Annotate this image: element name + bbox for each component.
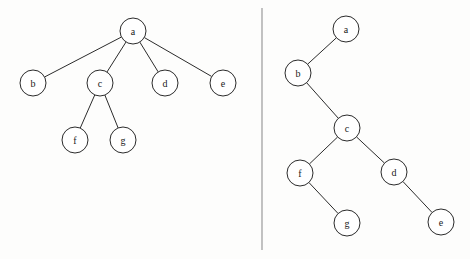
node-label-e: e xyxy=(221,78,226,89)
tree-node-binary-tree-c[interactable]: c xyxy=(334,115,360,141)
node-label-g: g xyxy=(345,218,350,229)
tree-edge-general-tree-a-b xyxy=(45,37,122,77)
node-label-b: b xyxy=(31,78,36,89)
tree-edge-binary-tree-d-e xyxy=(403,181,432,212)
node-label-a: a xyxy=(344,24,349,35)
tree-node-general-tree-c[interactable]: c xyxy=(87,70,113,96)
tree-edge-binary-tree-b-c xyxy=(307,83,339,119)
tree-node-binary-tree-e[interactable]: e xyxy=(428,209,454,235)
tree-node-binary-tree-b[interactable]: b xyxy=(285,60,311,86)
node-label-d: d xyxy=(392,167,397,178)
node-label-d: d xyxy=(163,78,168,89)
node-label-c: c xyxy=(345,123,350,134)
edges-layer xyxy=(45,37,433,214)
node-label-c: c xyxy=(98,78,103,89)
tree-edge-general-tree-a-d xyxy=(140,42,158,72)
tree-edge-binary-tree-c-f xyxy=(309,137,337,164)
tree-node-general-tree-e[interactable]: e xyxy=(210,70,236,96)
node-label-b: b xyxy=(296,68,301,79)
node-label-e: e xyxy=(439,217,444,228)
tree-edge-binary-tree-c-d xyxy=(356,137,384,163)
tree-node-general-tree-a[interactable]: a xyxy=(120,18,146,44)
tree-node-binary-tree-g[interactable]: g xyxy=(334,210,360,236)
tree-edge-general-tree-a-c xyxy=(107,42,126,72)
tree-node-general-tree-f[interactable]: f xyxy=(62,127,88,153)
tree-edge-binary-tree-f-g xyxy=(309,182,338,213)
tree-node-binary-tree-a[interactable]: a xyxy=(333,16,359,42)
tree-node-general-tree-d[interactable]: d xyxy=(152,70,178,96)
node-label-a: a xyxy=(131,26,136,37)
tree-diagram-figure: abcdefgabcfdge xyxy=(0,0,470,259)
tree-edge-general-tree-c-g xyxy=(105,95,118,128)
nodes-layer: abcdefgabcfdge xyxy=(20,16,454,236)
tree-node-binary-tree-f[interactable]: f xyxy=(287,160,313,186)
node-label-g: g xyxy=(121,135,126,146)
tree-edge-general-tree-a-e xyxy=(144,38,211,77)
tree-node-general-tree-g[interactable]: g xyxy=(110,127,136,153)
tree-node-binary-tree-d[interactable]: d xyxy=(381,159,407,185)
tree-node-general-tree-b[interactable]: b xyxy=(20,70,46,96)
diagram-canvas: abcdefgabcfdge xyxy=(0,0,470,259)
tree-edge-general-tree-c-f xyxy=(80,95,95,128)
tree-edge-binary-tree-a-b xyxy=(308,38,337,64)
